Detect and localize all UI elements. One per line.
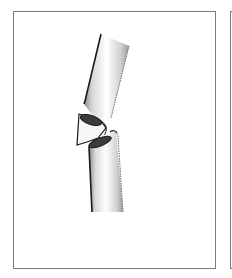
upper-bone-fragment [84, 34, 129, 125]
lower-bone-fragment [87, 131, 123, 212]
fracture-illustration [0, 0, 232, 278]
